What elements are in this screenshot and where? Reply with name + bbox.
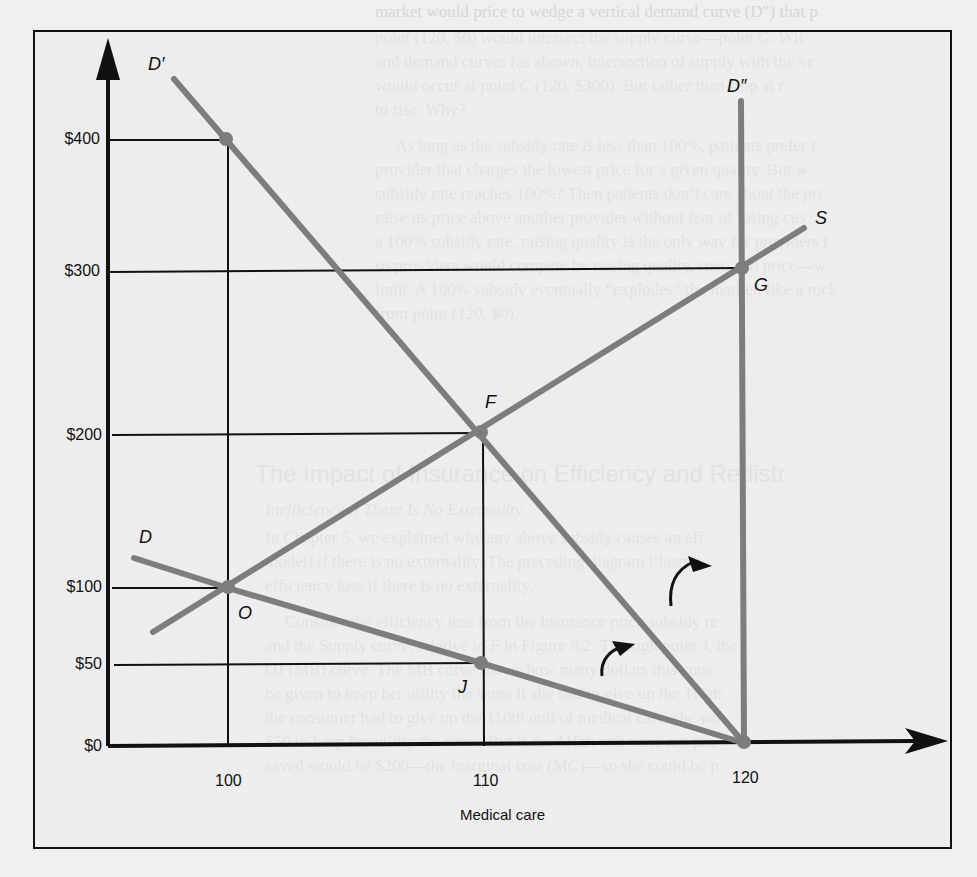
rotation-arrow-upper [671, 562, 693, 606]
label-point-o: O [238, 603, 252, 624]
label-point-f: F [485, 392, 496, 413]
label-d-prime: D′ [148, 54, 164, 75]
y-axis-arrow-icon [96, 38, 120, 80]
guide-lines [110, 140, 742, 746]
point-400 [219, 132, 233, 146]
rotation-arrows [602, 562, 693, 676]
label-point-j: J [458, 677, 467, 698]
label-point-g: G [754, 275, 768, 296]
y-tick-0: $0 [32, 737, 102, 755]
x-tick-100: 100 [215, 772, 242, 790]
point-o [221, 580, 235, 594]
point-f [474, 425, 488, 439]
y-tick-50: $50 [32, 655, 102, 673]
label-d-double-prime: D″ [727, 76, 746, 97]
y-tick-400: $400 [30, 130, 100, 148]
x-axis-title: Medical care [460, 806, 545, 823]
x-axis [108, 741, 915, 746]
curve-d-double-prime [741, 101, 744, 743]
point-120 [737, 735, 751, 749]
label-s: S [815, 208, 827, 229]
guide-50-h [114, 663, 480, 665]
x-tick-110: 110 [473, 772, 499, 790]
point-j [474, 656, 488, 670]
arrowhead-upper-icon [688, 556, 712, 572]
curves [134, 79, 804, 743]
guide-300-h [110, 268, 742, 272]
y-tick-100: $100 [32, 578, 102, 596]
x-tick-120: 120 [732, 769, 759, 787]
label-d: D [139, 527, 152, 548]
curve-d-prime [174, 79, 744, 743]
chart-plot [0, 0, 977, 877]
y-tick-200: $200 [32, 426, 102, 444]
y-tick-300: $300 [30, 262, 100, 280]
guide-200-h [112, 433, 480, 435]
point-g [735, 261, 749, 275]
guide-x110-v [483, 434, 484, 746]
